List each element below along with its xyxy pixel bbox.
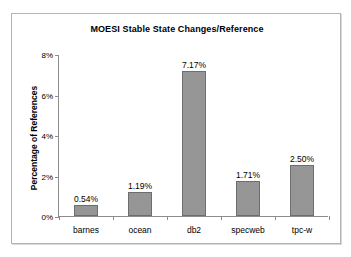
x-tick-mark: [221, 216, 222, 220]
x-tick-mark: [59, 216, 60, 220]
x-tick-mark: [113, 216, 114, 220]
y-axis-title: Percentage of References: [29, 63, 39, 213]
x-category-label: tpc-w: [275, 225, 329, 235]
bar-value-label: 7.17%: [182, 60, 206, 70]
bar-value-label: 1.71%: [236, 170, 260, 180]
bar-value-label: 1.19%: [128, 181, 152, 191]
x-category-label: ocean: [113, 225, 167, 235]
x-category-label: db2: [167, 225, 221, 235]
y-tick-mark: [55, 136, 59, 137]
x-tick-mark: [275, 216, 276, 220]
y-tick-mark: [55, 177, 59, 178]
bar: 0.54%: [74, 205, 98, 216]
bar: 1.19%: [128, 192, 152, 216]
bar: 1.71%: [236, 181, 260, 216]
bar-value-label: 0.54%: [74, 194, 98, 204]
y-tick-mark: [55, 55, 59, 56]
x-tick-mark: [329, 216, 330, 220]
x-category-label: barnes: [59, 225, 113, 235]
bar: 2.50%: [290, 165, 314, 216]
chart-title: MOESI Stable State Changes/Reference: [12, 24, 342, 34]
x-category-label: specweb: [221, 225, 275, 235]
plot-area: 0%2%4%6%8% 0.54%1.19%7.17%1.71%2.50% bar…: [58, 55, 328, 217]
bar-value-label: 2.50%: [290, 154, 314, 164]
y-tick-mark: [55, 96, 59, 97]
bar: 7.17%: [182, 71, 206, 216]
chart-frame: MOESI Stable State Changes/Reference Per…: [11, 13, 341, 244]
x-tick-mark: [167, 216, 168, 220]
